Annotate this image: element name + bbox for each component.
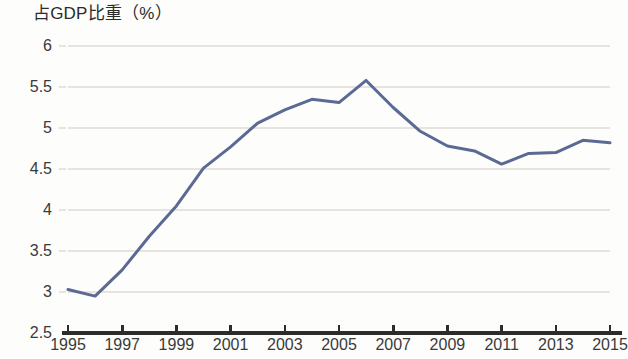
x-axis-tick-label: 2015	[592, 336, 628, 354]
x-axis-tick-label: 2013	[538, 336, 574, 354]
x-axis-tick-label: 2001	[213, 336, 249, 354]
x-axis-tick-label: 2011	[484, 336, 518, 354]
x-axis-tick-label: 1999	[159, 336, 195, 354]
x-axis-tick-label: 2007	[375, 336, 411, 354]
x-axis-tick-label: 2003	[267, 336, 303, 354]
x-axis-tick-label: 2005	[321, 336, 357, 354]
x-axis-tick-label: 1997	[104, 336, 140, 354]
x-axis-tick-label: 2009	[430, 336, 466, 354]
x-axis-tick-label: 1995	[50, 336, 86, 354]
